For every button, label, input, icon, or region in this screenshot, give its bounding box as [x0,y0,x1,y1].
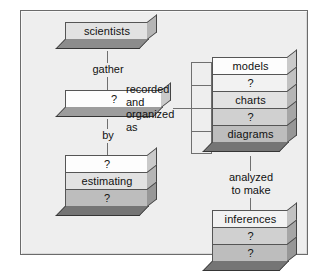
diagram-frame: scientists gather ? by ? estimating ? re… [20,10,308,255]
node-representations-layer-3: ? [212,108,289,126]
connector-scientists-to-gather [107,51,108,63]
bracket-prong-2 [191,108,212,109]
connector-label-analyzed-to-make: analyzed to make [217,171,285,196]
node-representations-layer-1: ? [212,74,289,92]
diagram-screenshot: scientists gather ? by ? estimating ? re… [0,0,327,271]
node-representations-layer-2: charts [212,91,289,109]
node-scientists[interactable]: scientists [65,22,149,40]
connector-data-to-by [107,119,108,129]
node-inferences-layer-2: ? [212,244,289,262]
node-inferences-layer-1: ? [212,227,289,245]
bracket-prong-0 [191,62,212,63]
node-representations-layer-0: models [212,57,289,75]
connector-gather-to-data [107,77,108,90]
connector-label-gather: gather [77,63,139,76]
node-methods[interactable]: ? estimating ? [65,155,149,207]
node-methods-layer-1: estimating [65,172,149,190]
node-methods-layer-0: ? [65,155,149,173]
node-representations-layer-4: diagrams [212,125,289,143]
bracket-prong-4 [191,153,212,154]
node-representations[interactable]: models ? charts ? diagrams [212,57,289,143]
connector-by-to-methods [107,143,108,155]
node-scientists-layer-0: scientists [65,22,149,40]
node-inferences-layer-0: inferences [212,210,289,228]
bracket-prong-3 [191,131,212,132]
bracket-connector [191,62,212,154]
connector-analyzed-to-inferences [250,198,251,210]
node-inferences[interactable]: inferences ? ? [212,210,289,262]
node-methods-layer-2: ? [65,189,149,207]
bracket-prong-1 [191,85,212,86]
connector-recorded-label-to-bracket [178,108,192,109]
connector-representations-to-analyzed [250,156,251,171]
